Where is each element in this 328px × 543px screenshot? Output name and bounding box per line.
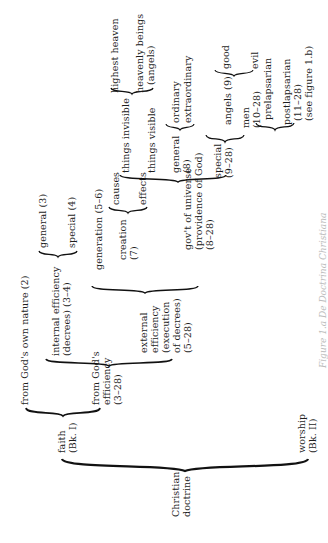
label: worship [296,414,307,453]
label: (execution [160,298,171,353]
label: special [212,144,223,178]
brace-general-8 [165,123,195,131]
brace-internal [38,250,78,258]
label: (11–28) [292,46,303,125]
label: men [240,91,251,128]
label: general [170,136,181,173]
node-worship: worship (Bk. II) [296,414,318,453]
label: (7) [128,219,139,260]
node-highest-heaven: highest heaven [109,18,120,93]
label: external [138,298,149,353]
figure-caption: Figure 1.a De Doctrina Christiana [318,213,328,368]
brace-special-9 [205,133,245,143]
brace-root [60,457,310,473]
brace-faith [24,406,102,418]
node-things-invisible: things invisible [120,98,131,173]
label: doctrine [181,472,192,517]
node-extraordinary: extraordinary [182,56,193,123]
label: (8) [181,136,192,173]
label: creation [117,219,128,260]
label: postlapsarian [281,46,292,125]
node-general-8: general (8) [170,136,192,173]
node-special-9: special (9–28) [212,144,234,178]
brace-efficiency [44,357,174,367]
label: (providence of God) [193,153,204,251]
node-things-visible: things visible [146,107,157,173]
node-own-nature: from God's own nature (2) [19,275,30,405]
label: (Bk. I) [67,422,78,453]
label: Christian [170,472,181,517]
label: (decrees) (3–4) [61,267,72,356]
label: (Bk. II) [307,414,318,453]
node-faith: faith (Bk. I) [56,422,78,453]
brace-angels [214,69,254,77]
node-prelapsarian: prelapsarian [262,58,273,120]
node-postlapsarian: postlapsarian (11–28) (see figure 1.b) [281,46,314,125]
node-good: good [220,45,231,69]
doctrine-tree-diagram: Christian doctrine faith (Bk. I) worship… [0,0,328,543]
node-angels-9: angels (9) [222,76,233,125]
label: (angels) [145,14,156,93]
node-heavenly-beings: heavenly beings (angels) [134,14,156,93]
brace-creation [108,206,148,214]
label: internal efficiency [50,267,61,356]
node-special-4: special (4) [66,197,77,248]
node-evil: evil [249,52,260,69]
label: of decrees) [171,298,182,353]
label: faith [56,422,67,453]
node-external-efficiency: external efficiency (execution of decree… [138,298,193,353]
node-ordinary: ordinary [170,81,181,123]
label: from God's own nature (2) [19,275,30,405]
label: efficiency [149,298,160,353]
node-internal-efficiency: internal efficiency (decrees) (3–4) [50,267,72,356]
label: (see figure 1.b) [303,46,314,125]
label: heavenly beings [134,14,145,93]
label: (9–28) [223,144,234,178]
node-general-3: general (3) [37,194,48,248]
node-creation: creation (7) [117,219,139,260]
brace-external [90,284,200,294]
label: (5–28) [182,298,193,353]
node-generation: generation (5–6) [93,189,104,270]
node-christian-doctrine: Christian doctrine [170,472,192,517]
